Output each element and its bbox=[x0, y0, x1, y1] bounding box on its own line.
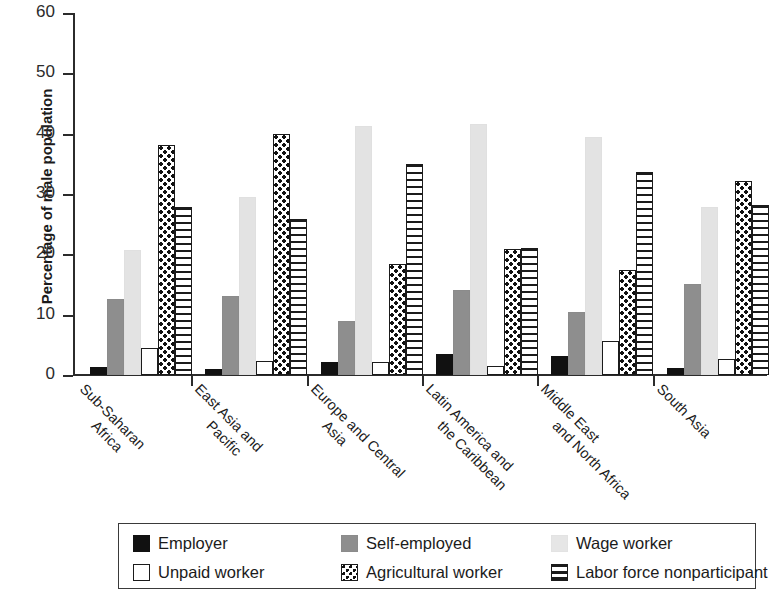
bar-wage-5 bbox=[701, 207, 718, 375]
bar-agri-0 bbox=[158, 145, 175, 375]
legend-swatch-self-icon bbox=[341, 535, 358, 552]
y-axis-tick-mark bbox=[63, 254, 73, 256]
bar-self-1 bbox=[222, 296, 239, 375]
bar-agri-4 bbox=[619, 270, 636, 375]
bar-agri-3 bbox=[504, 249, 521, 375]
bar-wage-3 bbox=[470, 124, 487, 375]
bar-employer-3 bbox=[436, 354, 453, 375]
legend-item-self: Self-employed bbox=[341, 534, 471, 553]
y-axis-tick-label: 20 bbox=[36, 243, 55, 263]
bar-wage-4 bbox=[585, 137, 602, 375]
x-axis-group-separator bbox=[422, 375, 424, 386]
y-axis-tick-mark bbox=[63, 134, 73, 136]
bar-labor-1 bbox=[290, 219, 307, 375]
legend-row: EmployerSelf-employedWage worker bbox=[119, 528, 755, 559]
bar-self-0 bbox=[107, 299, 124, 375]
y-axis-tick-mark bbox=[63, 194, 73, 196]
bar-wage-1 bbox=[239, 197, 256, 375]
bar-employer-5 bbox=[667, 368, 684, 375]
legend-item-labor: Labor force nonparticipant bbox=[551, 563, 768, 582]
bar-agri-2 bbox=[389, 264, 406, 375]
legend-item-employer: Employer bbox=[133, 534, 228, 553]
legend-swatch-agri-icon bbox=[341, 564, 358, 581]
bar-employer-0 bbox=[90, 367, 107, 375]
bar-employer-4 bbox=[551, 356, 568, 375]
bar-self-4 bbox=[568, 312, 585, 375]
bar-unpaid-3 bbox=[487, 366, 504, 375]
y-axis-tick-label: 50 bbox=[36, 62, 55, 82]
y-axis-tick-mark bbox=[63, 315, 73, 317]
bar-unpaid-0 bbox=[141, 348, 158, 375]
legend-item-wage: Wage worker bbox=[551, 534, 673, 553]
bar-employer-2 bbox=[321, 362, 338, 375]
bar-labor-4 bbox=[636, 172, 653, 375]
legend-swatch-wage-icon bbox=[551, 535, 568, 552]
y-axis-tick-label: 60 bbox=[36, 2, 55, 22]
x-axis-group-separator bbox=[307, 375, 309, 386]
legend-label: Labor force nonparticipant bbox=[576, 563, 768, 582]
x-axis-group-separator bbox=[191, 375, 193, 386]
legend-item-unpaid: Unpaid worker bbox=[133, 563, 264, 582]
bar-labor-2 bbox=[406, 164, 423, 375]
bar-wage-0 bbox=[124, 250, 141, 375]
y-axis-tick-mark bbox=[63, 375, 73, 377]
y-axis-tick-mark bbox=[63, 73, 73, 75]
bar-self-5 bbox=[684, 284, 701, 375]
x-axis-group-separator bbox=[537, 375, 539, 386]
bar-labor-5 bbox=[752, 205, 769, 375]
bar-labor-0 bbox=[175, 207, 192, 375]
legend-label: Employer bbox=[158, 534, 228, 553]
legend-label: Self-employed bbox=[366, 534, 471, 553]
bar-chart-figure: Percentage of male population 0102030405… bbox=[0, 0, 769, 600]
legend-item-agri: Agricultural worker bbox=[341, 563, 503, 582]
bar-labor-3 bbox=[521, 248, 538, 375]
y-axis-tick-label: 0 bbox=[46, 364, 55, 384]
legend-swatch-unpaid-icon bbox=[133, 564, 150, 581]
bar-unpaid-4 bbox=[602, 341, 619, 375]
bar-self-3 bbox=[453, 290, 470, 375]
bar-self-2 bbox=[338, 321, 355, 375]
y-axis-tick-mark bbox=[63, 13, 73, 15]
legend-swatch-labor-icon bbox=[551, 564, 568, 581]
bar-unpaid-2 bbox=[372, 362, 389, 375]
bar-agri-5 bbox=[735, 181, 752, 375]
plot-area: 0102030405060 bbox=[73, 13, 765, 375]
chart-legend: EmployerSelf-employedWage worker Unpaid … bbox=[118, 523, 756, 589]
legend-swatch-employer-icon bbox=[133, 535, 150, 552]
bar-agri-1 bbox=[273, 134, 290, 375]
y-axis-tick-label: 40 bbox=[36, 123, 55, 143]
y-axis-tick-label: 10 bbox=[36, 304, 55, 324]
bar-wage-2 bbox=[355, 126, 372, 375]
legend-row: Unpaid workerAgricultural workerLabor fo… bbox=[119, 557, 755, 588]
y-axis-tick-label: 30 bbox=[36, 183, 55, 203]
legend-label: Unpaid worker bbox=[158, 563, 264, 582]
legend-label: Agricultural worker bbox=[366, 563, 503, 582]
bar-unpaid-1 bbox=[256, 361, 273, 375]
bar-unpaid-5 bbox=[718, 359, 735, 375]
legend-label: Wage worker bbox=[576, 534, 673, 553]
bar-employer-1 bbox=[205, 369, 222, 375]
x-axis-group-separator bbox=[653, 375, 655, 386]
